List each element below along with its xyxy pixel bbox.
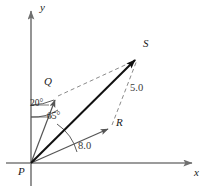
x-axis-label: x xyxy=(194,167,199,178)
point-label-p: P xyxy=(18,166,25,177)
vector-diagram: y x P Q R S 20° 65° 5.0 8.0 xyxy=(0,0,206,188)
point-label-q: Q xyxy=(44,76,52,87)
point-label-s: S xyxy=(143,38,149,49)
angle-label-20: 20° xyxy=(30,99,43,109)
length-label-8: 8.0 xyxy=(78,141,91,152)
length-label-5: 5.0 xyxy=(130,83,143,94)
diagram-canvas xyxy=(0,0,206,188)
dashed-line-qs xyxy=(58,60,136,96)
y-axis-label: y xyxy=(40,2,45,13)
angle-label-65: 65° xyxy=(47,112,60,122)
point-label-r: R xyxy=(116,117,123,128)
